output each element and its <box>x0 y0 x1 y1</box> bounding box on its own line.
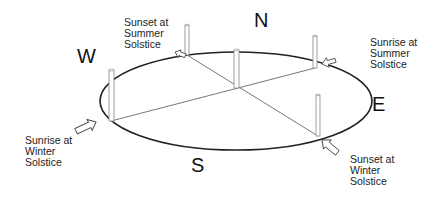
label-sunset-winter: Sunset at Winter Solstice <box>350 154 394 187</box>
post-center <box>234 49 239 88</box>
direction-north: N <box>254 9 268 32</box>
direction-south: S <box>191 154 204 177</box>
direction-east: E <box>372 93 385 116</box>
post-sunrise-summer <box>313 35 317 68</box>
post-sunset-summer <box>185 24 189 55</box>
direction-west: W <box>77 45 96 68</box>
label-sunrise-summer: Sunrise at Summer Solstice <box>370 37 417 70</box>
post-sunrise-winter <box>109 69 114 121</box>
solstice-diagram: N W E S Sunset at Summer Solstice Sunris… <box>0 0 440 198</box>
post-sunset-winter <box>316 94 320 136</box>
sightline-ne-w <box>111 68 315 121</box>
label-sunrise-winter: Sunrise at Winter Solstice <box>25 135 72 168</box>
label-sunset-summer: Sunset at Summer Solstice <box>124 17 168 50</box>
sightline-nw-se <box>187 55 318 136</box>
arrow-sunrise-winter-icon <box>74 117 99 137</box>
